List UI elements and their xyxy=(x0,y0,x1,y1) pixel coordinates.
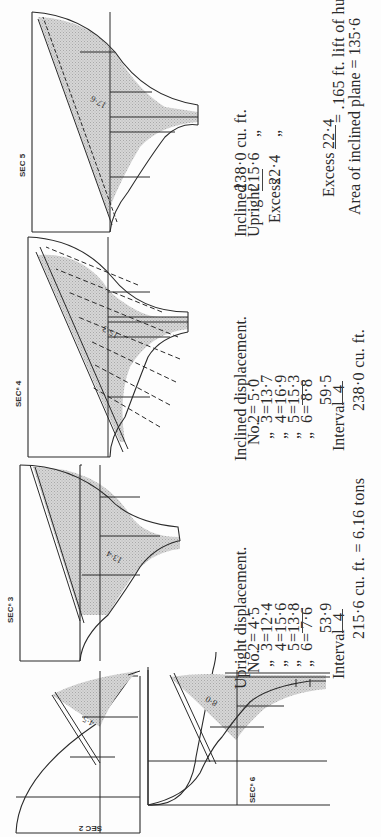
inclined-displacement-table: Inclined displacement. No. 2 = 5·0 „ 3 =… xyxy=(232,251,363,461)
lift-result: = .165 ft. lift of hull. xyxy=(333,0,346,197)
upright-row-3: „ 3 = 12·4 xyxy=(258,479,271,689)
inclined-row-3: „ 3 = 13·7 xyxy=(258,251,271,461)
lift-denominator: Area of inclined plane = 135·6 xyxy=(346,0,359,197)
upright-row-2: No. 2 = 4·5 xyxy=(245,479,258,689)
upright-heading: Upright displacement. xyxy=(232,479,245,689)
inclined-row-6: „ 6 = 8·8 xyxy=(298,251,311,461)
inclined-row-4: „ 4 = 16·9 xyxy=(272,251,285,461)
inclined-result-rule xyxy=(342,381,343,405)
inclined-row-2: No. 2 = 5·0 xyxy=(245,251,258,461)
upright-row-4: „ 4 = 15·6 xyxy=(272,479,285,689)
section-5-label: SEC 5 xyxy=(16,154,29,177)
upright-interval: Interval 4 xyxy=(330,479,343,689)
comparison-upright: Upright 215·6 „ xyxy=(245,37,258,237)
comparison-inclined: Inclined 238·0 cu. ft. xyxy=(232,37,245,237)
section-4-label: SECⁿ 4 xyxy=(12,381,25,407)
upright-result: 215·6 cu. ft. = 6.16 tons xyxy=(350,479,363,689)
inclined-interval: Interval 4 xyxy=(330,251,343,461)
upright-sum: 53·9 xyxy=(317,479,330,689)
comparison-rule xyxy=(262,169,263,191)
upright-displacement-table: Upright displacement. No. 2 = 4·5 „ 3 = … xyxy=(232,479,363,689)
inclined-result: 238·0 cu. ft. xyxy=(350,251,363,461)
inclined-row-5: „ 5 = 15·3 xyxy=(285,251,298,461)
upright-row-6: „ 6 = 7·6 xyxy=(298,479,311,689)
comparison-excess: Excess 22·4 „ xyxy=(266,37,279,237)
upright-sum-rule xyxy=(302,609,303,633)
section-3-label: SECⁿ 3 xyxy=(4,597,17,623)
inclined-sum: 59·5 xyxy=(317,251,330,461)
section-6-label: SECⁿ 6 xyxy=(246,777,259,803)
comparison-block: Inclined 238·0 cu. ft. Upright 215·6 „ E… xyxy=(232,37,280,237)
section-2-label: SEC 2 xyxy=(79,822,102,835)
upright-row-5: „ 5 = 13·8 xyxy=(285,479,298,689)
lift-calculation: Excess 22·4 = .165 ft. lift of hull. Are… xyxy=(320,0,360,197)
upright-result-rule xyxy=(342,609,343,633)
inclined-sum-rule xyxy=(302,381,303,405)
inclined-heading: Inclined displacement. xyxy=(232,251,245,461)
rotated-page: SEC 2 SECⁿ 6 SECⁿ 3 SECⁿ 4 SEC 5 4·5 8·0… xyxy=(0,0,381,837)
